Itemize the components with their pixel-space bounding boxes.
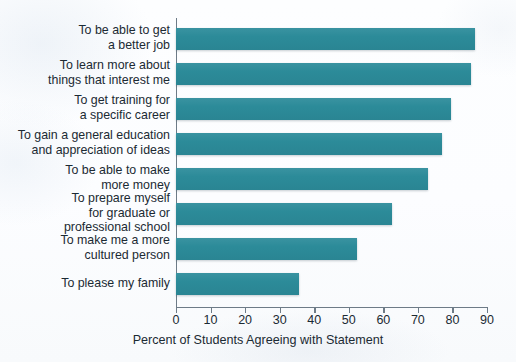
category-label: To make me a more cultured person	[0, 233, 170, 262]
x-axis-tick-label: 0	[173, 313, 180, 327]
category-label: To be able to make more money	[0, 163, 170, 192]
horizontal-bar-chart: To be able to get a better jobTo learn m…	[0, 0, 516, 362]
x-axis-tick-label: 40	[307, 313, 321, 327]
x-axis-tick-label: 60	[376, 313, 390, 327]
bar	[176, 203, 392, 225]
x-axis-tick-label: 10	[204, 313, 218, 327]
y-axis-line	[176, 18, 177, 308]
category-label: To please my family	[0, 276, 170, 291]
bar	[176, 168, 428, 190]
x-axis-tick-label: 30	[273, 313, 287, 327]
category-label: To learn more about things that interest…	[0, 58, 170, 87]
x-axis-tick-label: 80	[445, 313, 459, 327]
x-axis-tick-label: 90	[480, 313, 494, 327]
category-label: To be able to get a better job	[0, 23, 170, 52]
bar	[176, 63, 471, 85]
category-label: To gain a general education and apprecia…	[0, 128, 170, 157]
x-axis-tick-label: 50	[342, 313, 356, 327]
category-label: To prepare myself for graduate or profes…	[0, 191, 170, 235]
x-axis-tick-label: 70	[411, 313, 425, 327]
bar	[176, 238, 357, 260]
bar	[176, 133, 442, 155]
bar	[176, 273, 299, 295]
bar	[176, 98, 451, 120]
x-axis-tick-label: 20	[238, 313, 252, 327]
bar	[176, 28, 475, 50]
category-label: To get training for a specific career	[0, 93, 170, 122]
x-axis-line	[176, 307, 488, 308]
x-axis-title: Percent of Students Agreeing with Statem…	[0, 333, 516, 347]
